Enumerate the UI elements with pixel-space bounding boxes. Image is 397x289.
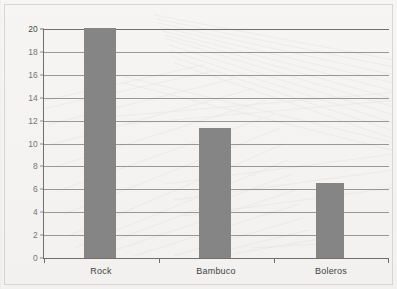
- ytick-mark-16: [40, 74, 44, 75]
- xcat-label-bambuco: Bambuco: [196, 266, 235, 276]
- ytick-mark-14: [40, 97, 44, 98]
- ytick-mark-6: [40, 189, 44, 190]
- ytick-label-4: 4: [33, 207, 38, 217]
- xcat-label-rock: Rock: [90, 266, 111, 276]
- xtick-mark-1: [159, 258, 160, 263]
- ytick-label-20: 20: [28, 24, 38, 34]
- xtick-mark-2: [274, 258, 275, 263]
- xtick-mark-end: [388, 258, 389, 263]
- ytick-mark-8: [40, 166, 44, 167]
- ytick-label-14: 14: [28, 93, 38, 103]
- ytick-mark-2: [40, 235, 44, 236]
- ytick-label-18: 18: [28, 47, 38, 57]
- bar-rock[interactable]: [84, 28, 116, 258]
- ytick-mark-4: [40, 212, 44, 213]
- bar-bambuco[interactable]: [199, 128, 231, 258]
- ytick-label-2: 2: [33, 230, 38, 240]
- ytick-label-12: 12: [28, 116, 38, 126]
- bar-boleros[interactable]: [316, 183, 344, 258]
- ytick-mark-18: [40, 51, 44, 52]
- ytick-label-16: 16: [28, 70, 38, 80]
- ytick-mark-10: [40, 143, 44, 144]
- xtick-mark-start: [44, 258, 45, 263]
- plot-area: 20 18 16 14 12 10 8 6: [43, 29, 389, 259]
- figure-frame: 20 18 16 14 12 10 8 6: [4, 4, 393, 285]
- ytick-label-8: 8: [33, 161, 38, 171]
- ytick-mark-20: [40, 29, 44, 30]
- ytick-label-10: 10: [28, 139, 38, 149]
- ytick-label-0: 0: [33, 253, 38, 263]
- ytick-label-6: 6: [33, 184, 38, 194]
- gridline-0: 0: [44, 258, 389, 259]
- xcat-label-boleros: Boleros: [315, 266, 347, 276]
- ytick-mark-12: [40, 120, 44, 121]
